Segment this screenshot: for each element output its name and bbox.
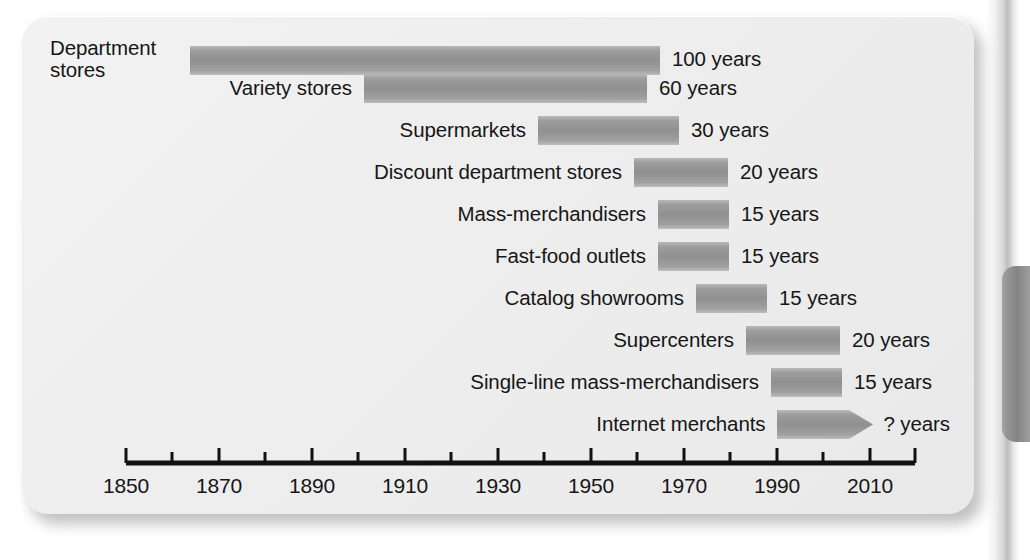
bar-discount-department-stores	[634, 158, 728, 187]
bar-value: 100 years	[672, 47, 761, 71]
axis-tick-label: 1990	[754, 474, 800, 498]
bar-catalog-showrooms	[696, 284, 767, 313]
bar-supermarkets	[538, 116, 679, 145]
bar-value: 15 years	[854, 370, 932, 394]
bar-value: 15 years	[741, 202, 819, 226]
bar-label: Single-line mass-merchandisers	[50, 371, 759, 393]
bar-value: 15 years	[779, 286, 857, 310]
bar-label: Variety stores	[50, 77, 352, 99]
bar-label-line1: Department	[50, 36, 156, 59]
axis-tick-label: 1870	[196, 474, 242, 498]
chart-row: Discount department stores 20 years	[50, 157, 950, 187]
bar-label: Supercenters	[50, 329, 734, 351]
chart-row: Catalog showrooms 15 years	[50, 283, 950, 313]
chart-row: Supercenters 20 years	[50, 325, 950, 355]
book-page-edge	[986, 0, 1028, 560]
axis-tick-label: 1930	[475, 474, 521, 498]
bar-value: 15 years	[741, 244, 819, 268]
chart-row: Fast-food outlets 15 years	[50, 241, 950, 271]
axis-tick-label: 1970	[661, 474, 707, 498]
bar-label: Mass-merchandisers	[50, 203, 646, 225]
chart-row: Mass-merchandisers 15 years	[50, 199, 950, 229]
bar-internet-merchants-arrow	[777, 410, 873, 439]
bar-label: Supermarkets	[50, 119, 526, 141]
bar-mass-merchandisers	[658, 200, 729, 229]
timeline-bar-chart-card: Department stores 100 years Variety stor…	[22, 16, 974, 514]
bar-single-line-mass-merchandisers	[771, 368, 842, 397]
bar-department-stores	[190, 46, 660, 75]
chart-row: Single-line mass-merchandisers 15 years	[50, 367, 950, 397]
bar-value: 30 years	[691, 118, 769, 142]
axis-tick-label: 2010	[847, 474, 893, 498]
bar-variety-stores	[364, 74, 647, 103]
bar-label: Discount department stores	[50, 161, 622, 183]
bar-label: Catalog showrooms	[50, 287, 684, 309]
bar-value: 20 years	[740, 160, 818, 184]
page-thumb-tab	[1002, 266, 1030, 442]
bar-fast-food-outlets	[658, 242, 729, 271]
bar-supercenters	[746, 326, 840, 355]
axis-tick-label: 1910	[382, 474, 428, 498]
bar-label: Internet merchants	[50, 413, 765, 435]
axis-tick-label: 1890	[289, 474, 335, 498]
bar-value: ? years	[883, 412, 950, 436]
bar-value: 20 years	[852, 328, 930, 352]
chart-row: Supermarkets 30 years	[50, 115, 950, 145]
axis-tick-label: 1950	[568, 474, 614, 498]
bar-value: 60 years	[659, 76, 737, 100]
axis-tick-label: 1850	[103, 474, 149, 498]
chart-row: Internet merchants ? years	[50, 409, 950, 439]
chart-row: Variety stores 60 years	[50, 73, 950, 103]
bar-label: Fast-food outlets	[50, 245, 646, 267]
